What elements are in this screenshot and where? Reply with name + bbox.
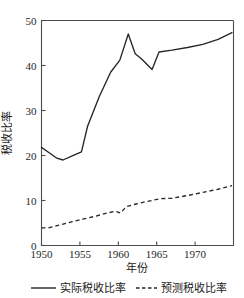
tax-ratio-line-chart: 01020304050 19501955196019651970 税收比率 年份… bbox=[0, 0, 244, 298]
y-tick-label: 50 bbox=[26, 15, 38, 27]
chart-canvas: 01020304050 19501955196019651970 税收比率 年份… bbox=[0, 0, 244, 298]
x-tick-label: 1965 bbox=[146, 248, 169, 260]
y-tick-label: 40 bbox=[26, 60, 38, 72]
y-tick-label: 30 bbox=[26, 105, 38, 117]
x-tick-label: 1950 bbox=[31, 248, 54, 260]
x-tick-label: 1970 bbox=[184, 248, 207, 260]
x-tick-label: 1955 bbox=[69, 248, 92, 260]
legend-label-forecast: 预测税收比率 bbox=[161, 281, 227, 294]
y-tick-label: 10 bbox=[26, 195, 38, 207]
y-tick-label: 20 bbox=[26, 150, 38, 162]
legend-label-actual: 实际税收比率 bbox=[60, 281, 126, 294]
y-axis-title: 税收比率 bbox=[0, 111, 13, 155]
x-tick-label: 1960 bbox=[107, 248, 130, 260]
x-axis-title: 年份 bbox=[126, 261, 148, 274]
